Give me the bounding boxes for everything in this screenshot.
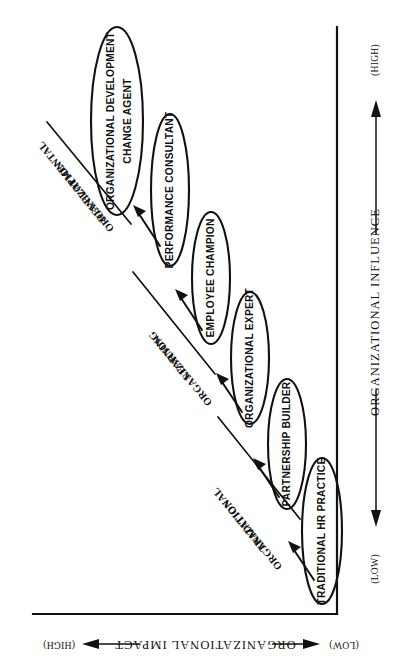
flow-arrow-to-performance-consultant <box>175 289 202 330</box>
influence-axis-low-label: (LOW) <box>369 554 381 584</box>
node-label-line1: ORGANIZATIONAL EXPERT <box>244 287 255 428</box>
influence-axis-high-label: (HIGH) <box>369 44 381 76</box>
node-performance-consultant[interactable]: PERFORMANCE CONSULTANT <box>151 111 189 268</box>
zone-label-line2: ORGANIZATION <box>220 497 284 572</box>
zone-traditional-organization: TRADITIONAL ORGANIZATION <box>210 486 284 573</box>
influence-axis-title: ORGANIZATIONAL INFLUENCE <box>368 208 382 416</box>
node-label-line1: TRADITIONAL HR PRACTICE <box>316 457 327 604</box>
node-label-line2: CHANGE AGENT <box>122 78 133 164</box>
node-label-line1: EMPLOYEE CHAMPION <box>205 218 216 337</box>
zone-label-line2: ORGANIZATION <box>150 333 214 408</box>
node-organizational-development-change-agent[interactable]: ORGANIZATIONAL DEVELOPMENT CHANGE AGENT <box>91 27 143 215</box>
impact-axis-group: ORGANIZATIONAL IMPACT (HIGH) (LOW) <box>43 638 359 652</box>
organizational-roles-diagram: ORGANIZATIONAL DEVELOPMENT CHANGE AGENT … <box>0 0 410 669</box>
node-label-line1: ORGANIZATIONAL DEVELOPMENT <box>105 31 116 210</box>
impact-axis-arrowhead-high <box>82 639 99 649</box>
zone-learning-organization: LEARNING ORGANIZATION <box>146 329 214 408</box>
node-label-line1: PERFORMANCE CONSULTANT <box>164 111 175 268</box>
impact-axis-title: ORGANIZATIONAL IMPACT <box>114 638 295 652</box>
influence-axis-arrowhead-high <box>371 100 381 117</box>
flow-arrow-to-organizational-expert <box>253 458 279 497</box>
flow-arrow-to-employee-champion <box>216 373 242 412</box>
node-ellipse <box>91 27 143 215</box>
influence-axis-arrowhead-low <box>371 510 381 527</box>
influence-axis-group: ORGANIZATIONAL INFLUENCE (HIGH) (LOW) <box>368 44 382 584</box>
flow-arrow-to-partnership-builder <box>288 541 314 580</box>
node-organizational-expert[interactable]: ORGANIZATIONAL EXPERT <box>231 287 269 428</box>
diagram-canvas: ORGANIZATIONAL DEVELOPMENT CHANGE AGENT … <box>0 0 410 669</box>
flow-arrow-to-change-agent <box>133 205 160 246</box>
impact-axis-low-label: (LOW) <box>329 639 359 651</box>
impact-axis-arrowhead-low <box>303 639 320 649</box>
node-label-line1: PARTNERSHIP BUILDER <box>281 381 292 506</box>
impact-axis-high-label: (HIGH) <box>43 639 75 651</box>
